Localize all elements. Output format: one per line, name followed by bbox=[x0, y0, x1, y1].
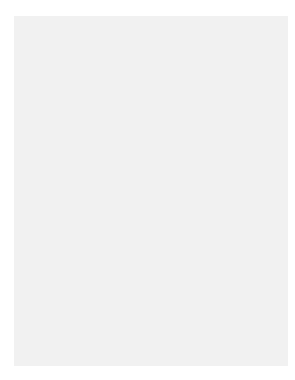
exponential-decay-chart bbox=[0, 0, 295, 380]
